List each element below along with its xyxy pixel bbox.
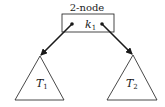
two-node-diagram: 2-node k1 T1 T2 bbox=[0, 0, 165, 107]
node-type-label: 2-node bbox=[70, 2, 105, 13]
key-subscript: 1 bbox=[92, 24, 96, 32]
right-child-arrow bbox=[102, 24, 132, 54]
left-subtree-label: T1 bbox=[36, 77, 48, 91]
left-child-arrow bbox=[41, 24, 72, 55]
right-subtree-label: T2 bbox=[126, 77, 138, 91]
